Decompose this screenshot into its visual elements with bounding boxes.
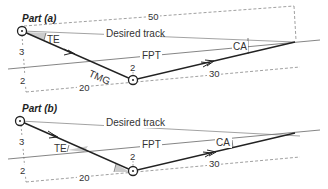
dim-bottom-right-label: 30 <box>209 68 220 79</box>
dim-bottom-left-label: 20 <box>79 82 90 93</box>
dim-top-label: 50 <box>148 11 159 22</box>
dim-line-right <box>294 6 296 40</box>
part-b: Part (b) Desired track FPT TE CA 20 30 3… <box>8 103 320 183</box>
fix-position-dot <box>132 79 134 81</box>
te-label: TE <box>54 143 67 154</box>
start-position-dot <box>19 120 21 122</box>
dim-line-bottom <box>26 67 300 92</box>
dim-bottom-left-label: 20 <box>79 172 90 183</box>
desired-track-label: Desired track <box>106 117 166 128</box>
part-a: Part (a) Desired track FPT TMG TE CA 50 … <box>8 6 320 93</box>
part-b-title: Part (b) <box>22 103 58 114</box>
part-a-title: Part (a) <box>22 13 57 24</box>
dim-left-lower-label: 2 <box>20 165 25 176</box>
dim-bottom-right-label: 30 <box>209 158 220 169</box>
dim-mid-label: 2 <box>130 62 135 73</box>
dim-left-lower-label: 2 <box>20 75 25 86</box>
dim-left-upper-label: 3 <box>19 46 24 57</box>
start-position-dot <box>21 30 23 32</box>
dim-left-upper-label: 3 <box>19 136 24 147</box>
desired-track-label: Desired track <box>106 28 166 39</box>
dim-mid-label: 2 <box>130 151 135 162</box>
navigation-diagram: Part (a) Desired track FPT TMG TE CA 50 … <box>0 0 328 189</box>
te-angle-arc <box>67 145 69 152</box>
fpt-label: FPT <box>142 50 161 61</box>
fix-position-dot <box>132 170 134 172</box>
te-label: TE <box>47 34 60 45</box>
ca-angle-arc <box>232 140 233 148</box>
fpt-label: FPT <box>142 139 161 150</box>
ca-label: CA <box>233 41 247 52</box>
ca-label: CA <box>216 137 230 148</box>
dim-line-bottom <box>26 157 300 182</box>
